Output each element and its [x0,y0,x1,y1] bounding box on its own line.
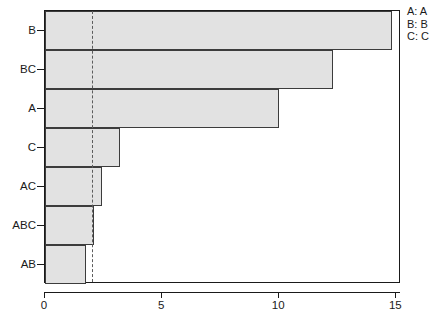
bar-1[interactable] [45,50,333,89]
y-tick-mark-4 [37,186,44,187]
bar-2[interactable] [45,89,279,128]
y-tick-mark-6 [37,264,44,265]
reference-line [92,11,93,282]
y-tick-label-4: AC [20,180,36,192]
legend-entry-a: A: A [407,5,429,18]
x-tick-mark-3 [395,292,396,298]
y-tick-label-5: ABC [12,219,36,231]
legend-entry-c: C: C [407,30,429,43]
bar-5[interactable] [45,206,94,245]
y-tick-label-3: C [28,141,36,153]
x-tick-mark-0 [44,292,45,298]
legend-entry-b: B: B [407,18,429,31]
x-tick-label-1: 5 [158,299,164,311]
plot-area [44,10,400,283]
x-tick-label-3: 15 [389,299,402,311]
y-tick-label-1: BC [20,63,36,75]
y-tick-label-0: B [28,24,36,36]
legend: A: A B: B C: C [407,5,429,43]
x-tick-mark-2 [278,292,279,298]
bar-3[interactable] [45,128,120,167]
x-tick-label-2: 10 [272,299,285,311]
bar-6[interactable] [45,245,86,284]
x-tick-mark-1 [161,292,162,298]
bar-4[interactable] [45,167,102,206]
bar-0[interactable] [45,11,392,50]
y-tick-mark-1 [37,69,44,70]
y-tick-mark-2 [37,108,44,109]
y-axis: B BC A C AC ABC AB [0,0,36,313]
y-tick-mark-5 [37,225,44,226]
pareto-chart: B BC A C AC ABC AB 0 5 10 15 A: A B: B C… [0,0,441,313]
x-axis-line [44,292,400,293]
y-tick-label-6: AB [21,258,36,270]
y-tick-label-2: A [28,102,36,114]
y-tick-mark-3 [37,147,44,148]
y-tick-mark-0 [37,30,44,31]
x-tick-label-0: 0 [41,299,47,311]
